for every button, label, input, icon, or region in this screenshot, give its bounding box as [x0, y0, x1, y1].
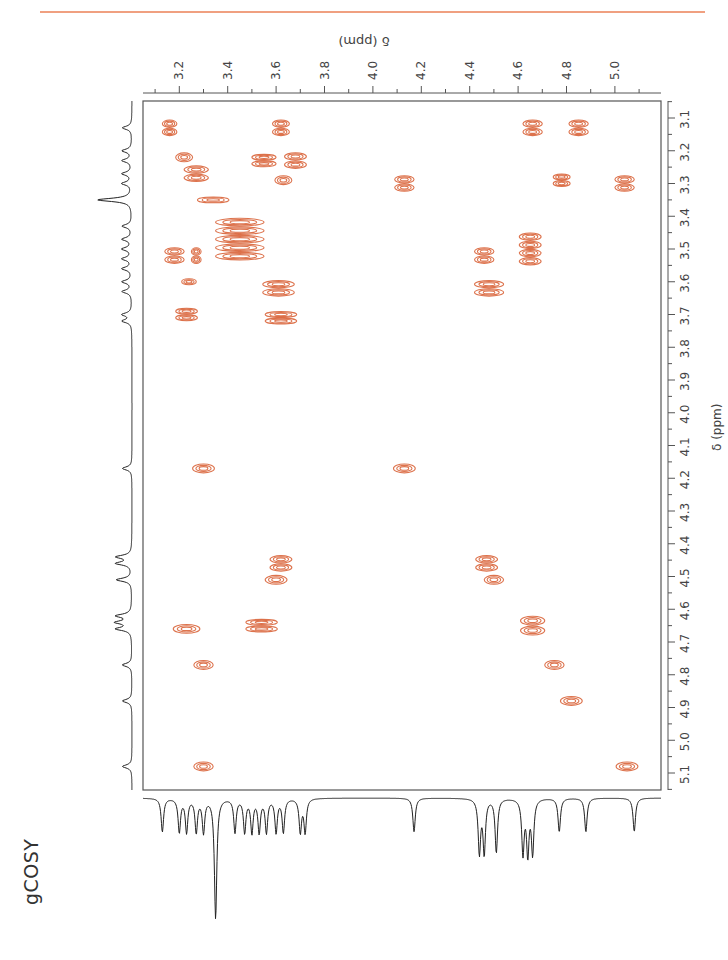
- cross-peak: [184, 166, 208, 182]
- cross-peak: [393, 464, 415, 473]
- svg-text:4.8: 4.8: [678, 667, 692, 686]
- svg-text:4.1: 4.1: [678, 437, 692, 456]
- svg-text:3.4: 3.4: [678, 208, 692, 227]
- cross-peak: [176, 308, 198, 320]
- svg-text:3.9: 3.9: [678, 372, 692, 391]
- svg-text:3.2: 3.2: [172, 61, 186, 80]
- svg-text:3.5: 3.5: [678, 241, 692, 260]
- left-1d-spectrum: [98, 101, 132, 790]
- cross-peak: [545, 661, 564, 670]
- cross-peak: [553, 174, 570, 186]
- svg-text:4.2: 4.2: [678, 470, 692, 489]
- svg-text:3.8: 3.8: [318, 61, 332, 80]
- cross-peak: [176, 153, 193, 162]
- top-axis: 3.23.43.63.84.04.24.44.64.85.0: [143, 61, 661, 93]
- svg-text:3.1: 3.1: [678, 110, 692, 129]
- svg-text:3.8: 3.8: [678, 339, 692, 358]
- cross-peak: [263, 281, 294, 297]
- cross-peak: [193, 464, 215, 473]
- cross-peak: [191, 248, 201, 264]
- svg-text:3.2: 3.2: [678, 143, 692, 162]
- cross-peak: [194, 661, 213, 670]
- cross-peak: [197, 197, 228, 203]
- cross-peak: [475, 281, 504, 297]
- cross-peak: [265, 312, 296, 324]
- cross-peak: [216, 218, 264, 260]
- svg-text:5.0: 5.0: [678, 732, 692, 751]
- cross-peaks: [162, 120, 638, 771]
- cross-peak: [173, 624, 200, 633]
- right-axis: 3.13.23.33.43.53.63.73.83.94.04.14.24.34…: [668, 101, 692, 790]
- plot-frame: [143, 101, 661, 790]
- svg-text:3.7: 3.7: [678, 306, 692, 325]
- cross-peak: [476, 556, 498, 572]
- cross-peak: [523, 120, 542, 136]
- svg-text:3.6: 3.6: [678, 274, 692, 293]
- svg-text:4.3: 4.3: [678, 503, 692, 522]
- cross-peak: [569, 120, 588, 136]
- svg-text:4.9: 4.9: [678, 699, 692, 718]
- cross-peak: [521, 616, 545, 635]
- cross-peak: [182, 279, 197, 285]
- cross-peak: [162, 120, 177, 136]
- svg-text:4.6: 4.6: [511, 61, 525, 80]
- svg-text:4.2: 4.2: [414, 61, 428, 80]
- cross-peak: [270, 556, 292, 572]
- svg-text:5.0: 5.0: [608, 61, 622, 80]
- svg-text:4.4: 4.4: [678, 536, 692, 555]
- svg-text:4.4: 4.4: [463, 61, 477, 80]
- svg-text:3.4: 3.4: [221, 61, 235, 80]
- cross-peak: [519, 233, 541, 265]
- cross-peak: [272, 120, 289, 136]
- svg-text:4.6: 4.6: [678, 601, 692, 620]
- svg-text:4.7: 4.7: [678, 634, 692, 653]
- svg-text:3.6: 3.6: [269, 61, 283, 80]
- cross-peak: [615, 176, 634, 192]
- cross-peak: [246, 619, 277, 631]
- cosy-chart: 3.23.43.63.84.04.24.44.64.85.0 3.13.23.3…: [0, 0, 728, 960]
- cross-peak: [484, 575, 503, 584]
- svg-text:4.0: 4.0: [366, 61, 380, 80]
- bottom-1d-spectrum: [143, 798, 661, 919]
- cross-peak: [395, 176, 414, 192]
- svg-text:4.0: 4.0: [678, 405, 692, 424]
- cross-peak: [265, 575, 287, 584]
- experiment-title: gCOSY: [20, 839, 42, 905]
- cross-peak: [194, 762, 213, 771]
- cross-peak: [616, 762, 638, 771]
- cross-peak: [165, 248, 184, 264]
- cross-peak: [252, 154, 276, 166]
- svg-text:4.5: 4.5: [678, 568, 692, 587]
- cross-peak: [275, 176, 292, 185]
- cross-peak: [475, 248, 494, 264]
- svg-text:4.8: 4.8: [560, 61, 574, 80]
- cross-peak: [285, 153, 307, 169]
- svg-text:5.1: 5.1: [678, 765, 692, 784]
- cross-peak: [560, 697, 582, 706]
- svg-text:3.3: 3.3: [678, 175, 692, 194]
